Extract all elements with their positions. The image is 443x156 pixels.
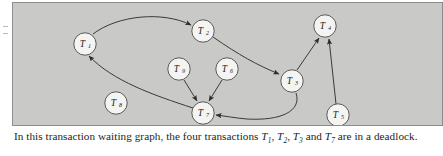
edge-t6-to-t7: [209, 80, 222, 101]
node-t5-subscript: 5: [341, 113, 344, 120]
caption-text-part1: In this transaction waiting graph, the f…: [14, 130, 261, 142]
margin-mark-lower: [3, 33, 8, 34]
node-t5-label: T: [333, 110, 339, 120]
node-t9-label: T: [174, 64, 180, 74]
margin-mark-upper: [3, 26, 8, 27]
graph-nodes: T 1 T 2 T 3 T 4: [74, 15, 349, 126]
edge-t9-to-t7: [184, 80, 197, 101]
caption-var-t2: T2: [277, 130, 287, 142]
edge-t3-to-t4: [297, 38, 319, 70]
node-t2-label: T: [198, 26, 204, 36]
node-t4-subscript: 4: [328, 24, 331, 31]
node-t2[interactable]: T 2: [192, 20, 214, 42]
caption-var-t3: T3: [293, 130, 303, 142]
node-t9[interactable]: T 9: [168, 58, 190, 80]
figure-page: T 1 T 2 T 3 T 4: [0, 0, 443, 156]
caption-var-t7: T7: [325, 130, 335, 142]
node-t8[interactable]: T 8: [105, 92, 127, 114]
node-t6-label: T: [222, 64, 228, 74]
caption-sep-3: and: [303, 130, 325, 142]
caption-var-t1: T1: [261, 130, 271, 142]
node-t1-subscript: 1: [88, 42, 91, 49]
graph-figure-panel: T 1 T 2 T 3 T 4: [12, 2, 443, 126]
edge-t5-to-t4: [329, 39, 336, 104]
edge-t3-to-t7: [216, 93, 297, 119]
node-t8-label: T: [111, 98, 117, 108]
node-t1[interactable]: T 1: [74, 33, 96, 55]
node-t6[interactable]: T 6: [216, 58, 238, 80]
node-t3[interactable]: T 3: [281, 70, 303, 92]
node-t4-label: T: [320, 21, 326, 31]
transaction-waiting-graph: T 1 T 2 T 3 T 4: [13, 3, 443, 126]
node-t7-label: T: [198, 108, 204, 118]
edge-t1-to-t2: [93, 17, 191, 34]
node-t7[interactable]: T 7: [192, 102, 214, 124]
node-t9-subscript: 9: [182, 67, 185, 74]
node-t1-label: T: [80, 39, 86, 49]
node-t4[interactable]: T 4: [314, 15, 336, 37]
figure-caption: In this transaction waiting graph, the f…: [14, 130, 440, 145]
node-t5[interactable]: T 5: [327, 104, 349, 126]
node-t3-label: T: [287, 76, 293, 86]
node-t3-subscript: 3: [294, 79, 298, 86]
caption-text-part2: are in a deadlock.: [335, 130, 418, 142]
node-t2-subscript: 2: [206, 29, 209, 36]
